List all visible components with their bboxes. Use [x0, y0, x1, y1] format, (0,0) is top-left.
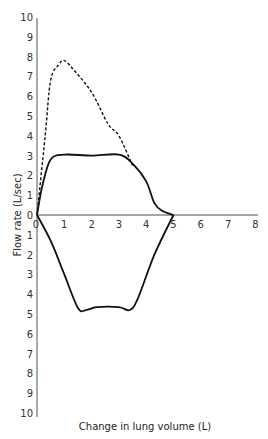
y-tick: 1: [27, 190, 33, 201]
solid-curve: [37, 154, 174, 215]
y-tick: 8: [27, 368, 33, 379]
x-tick: 4: [143, 219, 149, 230]
y-axis-label: Flow rate (L/sec): [12, 173, 23, 256]
x-tick-labels: 012345678: [33, 219, 259, 230]
y-tick: 3: [27, 269, 33, 280]
y-tick: 10: [20, 12, 33, 23]
dashed-curve: [37, 60, 133, 215]
y-tick: 5: [27, 309, 33, 320]
x-tick: 6: [198, 219, 204, 230]
y-tick: 7: [27, 349, 33, 360]
y-tick: 6: [27, 329, 33, 340]
y-tick: 4: [27, 131, 33, 142]
y-tick: 5: [27, 111, 33, 122]
x-tick: 7: [225, 219, 231, 230]
y-tick: 9: [27, 388, 33, 399]
x-tick: 2: [88, 219, 94, 230]
y-tick: 9: [27, 32, 33, 43]
x-tick: 0: [33, 219, 39, 230]
y-tick: 2: [27, 250, 33, 261]
flow-volume-chart: 012345678 01234567891012345678910 Change…: [0, 0, 268, 439]
x-tick: 3: [116, 219, 122, 230]
y-tick: 1: [27, 230, 33, 241]
y-tick: 4: [27, 289, 33, 300]
curves: [37, 60, 174, 311]
y-tick: 7: [27, 71, 33, 82]
x-axis-label: Change in lung volume (L): [79, 421, 211, 432]
x-tick: 8: [252, 219, 258, 230]
y-tick: 8: [27, 52, 33, 63]
y-tick: 3: [27, 151, 33, 162]
y-tick: 2: [27, 170, 33, 181]
solid-curve: [37, 215, 174, 311]
y-tick: 6: [27, 91, 33, 102]
y-tick: 0: [27, 210, 33, 221]
x-tick: 1: [61, 219, 67, 230]
y-tick: 10: [20, 408, 33, 419]
